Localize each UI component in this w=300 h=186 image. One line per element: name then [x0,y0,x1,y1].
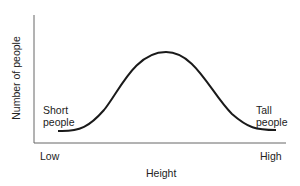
x-axis-label: Height [146,167,176,179]
tall-people-annotation: Tall people [256,104,288,128]
x-tick-low: Low [40,150,59,162]
short-people-annotation: Short people [43,104,75,128]
bell-curve [58,52,276,131]
tall-label-line1: Tall [256,104,288,116]
short-label-line2: people [43,116,75,128]
y-axis-label: Number of people [10,28,22,128]
tall-label-line2: people [256,116,288,128]
x-tick-high: High [260,150,282,162]
short-label-line1: Short [43,104,75,116]
